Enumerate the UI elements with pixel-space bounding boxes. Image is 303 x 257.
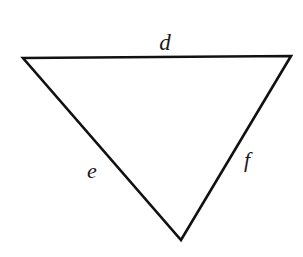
triangle-figure: d e f <box>0 0 303 257</box>
side-label-top: d <box>159 31 171 54</box>
side-label-left: e <box>87 160 97 182</box>
triangle-shape <box>0 0 303 257</box>
side-label-right: f <box>244 149 250 171</box>
